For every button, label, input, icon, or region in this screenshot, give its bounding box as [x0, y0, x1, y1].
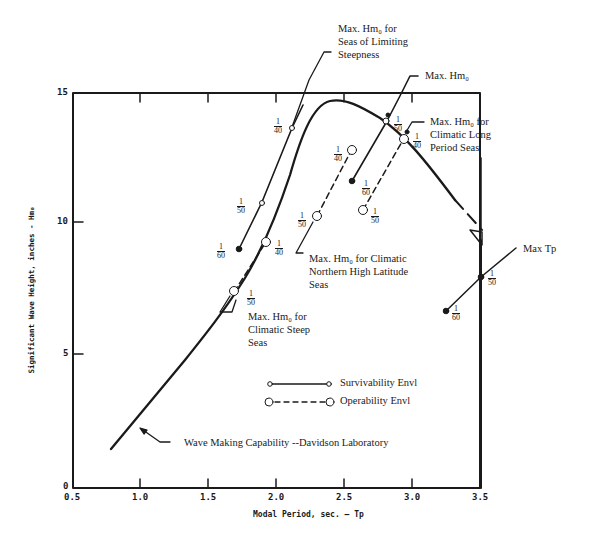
frac-limiting-1-60: 160 — [217, 243, 225, 260]
annotation-line: Northern High Latitude — [309, 265, 408, 278]
legend-survivability-label: Survivability Envl — [340, 377, 417, 388]
x-axis-title: Modal Period, sec. – Tp — [253, 510, 364, 519]
marker-northern-1-50 — [313, 212, 322, 221]
legend-operability-label: Operability Envl — [340, 395, 410, 406]
frac-maxhm-1-50: 150 — [394, 116, 402, 133]
frac-maxtp-1-60: 160 — [452, 305, 460, 322]
davidson-leader — [143, 430, 170, 442]
frac-long-1-40: 140 — [413, 133, 421, 150]
legend-operability-marker-right — [326, 398, 334, 406]
annotation-line: Max. Hm₀ for — [338, 22, 408, 35]
annotation-line: Climatic Long — [430, 128, 491, 141]
legend-survivability-marker-left — [268, 382, 273, 387]
frac-limiting-1-40: 140 — [274, 118, 282, 135]
frac-steep-1-50: 150 — [247, 290, 255, 307]
marker-northern-1-40 — [348, 146, 357, 155]
annotation-line: Max. Hm₀ for Climatic — [309, 252, 408, 265]
marker-maxhm-1-50 — [383, 118, 389, 124]
x-tick-3-5: 3.5 — [472, 492, 488, 502]
marker-long-1-40 — [400, 135, 409, 144]
marker-1-40 — [290, 126, 295, 131]
x-tick-1-0: 1.0 — [132, 492, 148, 502]
y-tick-5: 5 — [63, 348, 68, 358]
x-tick-3-0: 3.0 — [404, 492, 420, 502]
annotation-limiting-steepness: Max. Hm₀ for Seas of Limiting Steepness — [338, 22, 408, 61]
frac-steep-1-40: 140 — [275, 240, 283, 257]
davidson-arrowhead — [140, 428, 147, 434]
annotation-line: Period Seas — [430, 141, 491, 154]
y-tick-10: 10 — [57, 216, 68, 226]
y-tick-0: 0 — [63, 481, 68, 491]
top-ticks — [140, 93, 412, 102]
legend-operability-marker-left — [265, 398, 273, 406]
x-tick-2-5: 2.5 — [336, 492, 352, 502]
frac-maxtp-1-50: 150 — [488, 270, 496, 287]
legend-survivability-marker-right — [327, 382, 332, 387]
annotation-long-period: Max. Hm₀ for Climatic Long Period Seas — [430, 115, 491, 154]
annotation-line: Seas — [309, 278, 408, 291]
wave-making-capability-extrapolation — [455, 200, 482, 230]
left-ticks — [73, 222, 83, 354]
frac-limiting-1-50: 150 — [237, 198, 245, 215]
x-tick-0-5: 0.5 — [64, 492, 80, 502]
y-axis-title: Significant Wave Height, inches - Hm₀ — [27, 206, 36, 373]
frac-maxhm-1-60: 160 — [362, 180, 370, 197]
marker-1-50 — [260, 201, 265, 206]
annotation-line: Seas of Limiting — [338, 35, 408, 48]
frac-long-1-50: 150 — [371, 208, 379, 225]
marker-steep-1-40 — [262, 238, 271, 247]
marker-maxhm-1-60 — [349, 178, 355, 184]
annotation-line: Max. Hm₀ for — [430, 115, 491, 128]
marker-maxtp-1-50 — [478, 274, 484, 280]
annotation-line: Wave Making Capability --Davidson Labora… — [184, 436, 388, 449]
frac-northern-1-40: 140 — [334, 146, 342, 163]
annotation-line: Max. Hm₀ for — [248, 310, 310, 323]
annotation-max-tp: Max Tp — [523, 242, 556, 255]
annotation-line: Max Tp — [523, 242, 556, 255]
marker-1-60 — [236, 246, 242, 252]
annotation-max-hm: Max. Hm₀ — [425, 69, 469, 82]
marker-steep-1-50 — [230, 287, 239, 296]
marker-maxhm-top — [386, 113, 390, 117]
bottom-ticks — [140, 479, 412, 488]
annotation-line: Seas — [248, 336, 310, 349]
marker-long-top — [405, 130, 409, 134]
chart-canvas — [0, 0, 594, 553]
annotation-line: Climatic Steep — [248, 323, 310, 336]
x-tick-1-5: 1.5 — [200, 492, 216, 502]
annotation-line: Steepness — [338, 48, 408, 61]
y-tick-15: 15 — [57, 87, 68, 97]
annotation-northern: Max. Hm₀ for Climatic Northern High Lati… — [309, 252, 408, 291]
plot-frame — [73, 93, 480, 488]
marker-maxtp-1-60 — [443, 308, 449, 314]
annotation-davidson: Wave Making Capability --Davidson Labora… — [184, 436, 388, 449]
marker-long-1-50 — [359, 206, 368, 215]
frac-northern-1-50: 150 — [298, 212, 306, 229]
annotation-steep: Max. Hm₀ for Climatic Steep Seas — [248, 310, 310, 349]
x-tick-2-0: 2.0 — [268, 492, 284, 502]
annotation-line: Max. Hm₀ — [425, 69, 469, 82]
